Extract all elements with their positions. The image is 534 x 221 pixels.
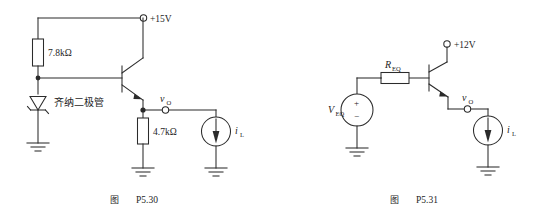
resistor-4k7-body xyxy=(138,118,149,144)
caption-prefix-p5-31: 图 xyxy=(390,195,399,205)
zener-diode-label: 齐纳二极管 xyxy=(54,96,104,108)
voltage-source-plus: + xyxy=(354,98,359,108)
current-source-label-il-right: i xyxy=(507,124,510,135)
output-label-vo-sub: O xyxy=(167,99,172,106)
resistor-4k7-label: 4.7kΩ xyxy=(153,127,177,137)
current-source-label-il-sub: L xyxy=(240,131,244,138)
resistor-req-label-sub: EQ xyxy=(392,65,401,72)
caption-number-p5-30: P5.30 xyxy=(136,195,158,205)
zener-bar-right-tick xyxy=(46,110,49,114)
figure-p5-30: +15V 7.8kΩ 齐纳二极管 xyxy=(27,14,244,206)
ground-symbol-voltage-source xyxy=(346,148,368,156)
circuit-diagram-canvas: +15V 7.8kΩ 齐纳二极管 xyxy=(0,0,534,221)
voltage-source-label-veq-sub: EQ xyxy=(336,110,345,117)
supply-terminal-12v xyxy=(444,41,450,47)
resistor-7k8-body xyxy=(33,39,44,66)
output-label-vo-right: v xyxy=(462,92,467,103)
transistor-collector-lead-right xyxy=(429,62,447,72)
output-terminal-vo xyxy=(162,107,168,113)
ground-symbol-current-source-right xyxy=(477,167,499,175)
zener-bar-left-tick xyxy=(28,107,31,111)
current-source-label-il: i xyxy=(235,125,238,136)
output-terminal-vo-right xyxy=(464,106,470,112)
transistor-emitter-arrow-right xyxy=(439,91,447,96)
current-source-label-il-sub-right: L xyxy=(512,130,516,137)
resistor-req-body xyxy=(381,73,409,84)
ground-symbol-load-resistor xyxy=(132,168,154,176)
voltage-source-minus: − xyxy=(354,111,359,121)
transistor-collector-lead xyxy=(122,58,143,73)
resistor-7k8-label: 7.8kΩ xyxy=(48,48,72,58)
ground-symbol-zener xyxy=(27,143,49,151)
resistor-req-label: R xyxy=(384,59,391,70)
ground-symbol-current-source xyxy=(205,168,227,176)
figure-page: +15V 7.8kΩ 齐纳二极管 xyxy=(0,0,534,221)
figure-p5-31: +12V R EQ + − V EQ v O xyxy=(328,40,516,206)
caption-prefix-p5-30: 图 xyxy=(110,195,119,205)
supply-label-12v: +12V xyxy=(454,40,476,50)
zener-diode-triangle xyxy=(30,97,46,111)
caption-number-p5-31: P5.31 xyxy=(416,195,438,205)
output-label-vo-sub-right: O xyxy=(469,98,474,105)
transistor-emitter-arrow xyxy=(133,94,142,99)
output-label-vo: v xyxy=(160,93,165,104)
supply-label-15v: +15V xyxy=(150,14,172,24)
